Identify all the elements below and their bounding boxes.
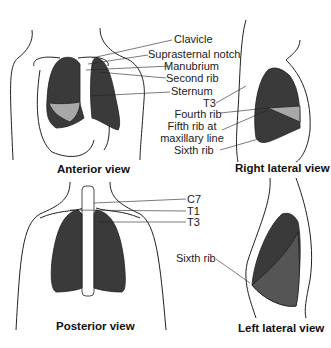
- label-sternum: Sternum: [171, 86, 213, 97]
- label-fifth-rib-at: Fifth rib at: [160, 121, 224, 132]
- label-clavicle: Clavicle: [174, 34, 213, 45]
- label-manubrium: Manubrium: [164, 61, 219, 72]
- caption-right-lateral-view: Right lateral view: [235, 162, 330, 174]
- label-c7: C7: [187, 194, 201, 205]
- label-maxillary-line: maxillary line: [160, 133, 224, 144]
- posterior-spine: [82, 186, 94, 296]
- label-second-rib: Second rib: [166, 73, 219, 84]
- label-fourth-rib: Fourth rib: [168, 109, 228, 120]
- label-t3-posterior: T3: [187, 217, 200, 228]
- anterior-lungs: [47, 57, 120, 130]
- label-sixth-rib-right: Sixth rib: [174, 145, 214, 156]
- left-lateral-leader-lines: [216, 259, 250, 283]
- label-suprasternal-notch: Suprasternal notch: [148, 49, 240, 60]
- caption-left-lateral-view: Left lateral view: [238, 322, 324, 334]
- caption-posterior-view: Posterior view: [56, 320, 135, 332]
- caption-anterior-view: Anterior view: [57, 163, 130, 175]
- label-sixth-rib-left: Sixth rib: [176, 253, 216, 264]
- right-lateral-lung: [255, 68, 300, 143]
